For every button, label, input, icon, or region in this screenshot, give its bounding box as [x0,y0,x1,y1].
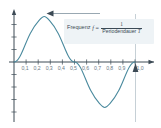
x-tick-label-7: 0,8 [106,66,113,71]
x-tick-label-6: 0,7 [94,66,101,71]
x-tick-label-5: 0,6 [82,66,89,71]
period-span-arrow [47,11,101,17]
x-tick-label-9: 1,0 [137,66,144,71]
x-tick-label-2: 0,3 [46,66,53,71]
formula-equals: = [95,25,98,31]
y-axis-arrowhead [12,9,16,15]
formula-denominator: Periodendauer T [101,29,141,35]
formula-symbol-f: f [92,25,94,31]
x-tick-label-8: 0,9 [118,66,125,71]
x-tick-label-0: 0,1 [22,66,29,71]
x-axis-arrowhead [149,60,155,64]
frequency-formula: Frequenz f = 1 Periodendauer T [67,22,142,34]
formula-symbol-T: T [138,28,141,34]
formula-fraction: 1 Periodendauer T [101,22,141,34]
x-tick-label-4: 0,5 [70,66,77,71]
sine-wave-figure: 0,1 0,2 0,3 0,4 0,5 0,6 0,7 0,8 0,9 1,0 … [0,0,161,128]
formula-lead-label: Frequenz [67,25,91,31]
x-tick-label-3: 0,4 [58,66,65,71]
formula-denominator-label: Periodendauer [102,28,136,34]
x-tick-label-1: 0,2 [34,66,41,71]
